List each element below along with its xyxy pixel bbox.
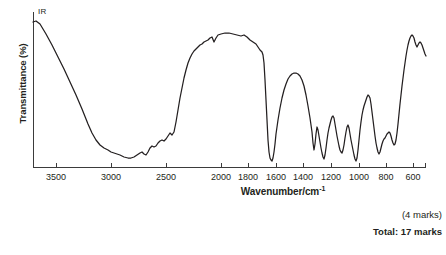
x-axis-tick-label: 1800 [238,172,258,182]
x-axis-title-text: Wavenumber/cm [241,186,319,197]
ir-spectrum-chart: 3500300025002000180016001400120010008006… [0,0,446,200]
x-axis-tick-label: 3000 [101,172,121,182]
x-axis-title-superscript: -1 [319,185,325,192]
x-axis-tick-label: 600 [405,172,420,182]
x-axis-tick-label: 2000 [211,172,231,182]
marks-block: (4 marks) Total: 17 marks [142,208,442,240]
partial-marks-label: (4 marks) [142,208,442,222]
series-label-ir: IR [38,7,46,16]
y-axis-title: Transmittance (%) [17,14,28,154]
x-axis-tick-label: 1600 [266,172,286,182]
spectrum-trace [33,21,426,161]
x-axis-tick-label: 3500 [46,172,66,182]
x-axis-title: Wavenumber/cm-1 [0,186,446,197]
x-axis-tick-labels: 3500300025002000180016001400120010008006… [46,172,421,182]
x-axis-tick-label: 2500 [156,172,176,182]
x-axis-tick-label: 1400 [293,172,313,182]
total-marks-label: Total: 17 marks [142,224,442,240]
ir-spectrum-figure: 3500300025002000180016001400120010008006… [0,0,446,200]
x-axis-tick-label: 1000 [349,172,369,182]
x-axis-tick-label: 1200 [321,172,341,182]
x-axis-ticks [57,163,426,167]
worksheet-page: 3500300025002000180016001400120010008006… [0,0,446,255]
x-axis-tick-label: 800 [378,172,393,182]
